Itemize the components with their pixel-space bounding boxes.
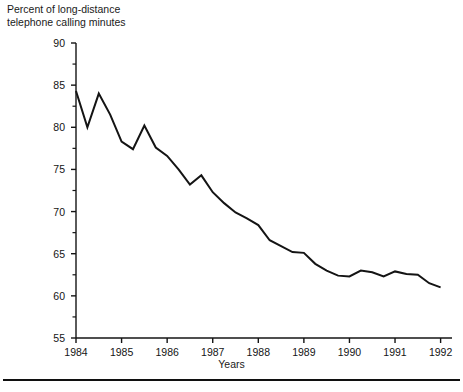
svg-text:1987: 1987 [201, 346, 225, 358]
svg-text:90: 90 [53, 37, 65, 49]
x-axis-tick-labels: 198419851986198719881989199019911992 [64, 346, 452, 358]
svg-text:70: 70 [53, 206, 65, 218]
svg-text:55: 55 [53, 332, 65, 344]
svg-text:80: 80 [53, 121, 65, 133]
svg-text:1988: 1988 [247, 346, 271, 358]
svg-text:1992: 1992 [429, 346, 453, 358]
svg-text:75: 75 [53, 163, 65, 175]
svg-text:65: 65 [53, 248, 65, 260]
x-axis-ticks [76, 338, 441, 343]
svg-text:85: 85 [53, 79, 65, 91]
x-axis-title: Years [0, 358, 463, 371]
data-series-line [76, 91, 441, 287]
svg-text:60: 60 [53, 290, 65, 302]
axis-lines [76, 43, 452, 338]
svg-text:1990: 1990 [338, 346, 362, 358]
line-chart-plot: 5560657075808590 19841985198619871988198… [0, 0, 463, 392]
svg-text:1986: 1986 [155, 346, 179, 358]
svg-text:1985: 1985 [110, 346, 134, 358]
svg-text:1991: 1991 [383, 346, 407, 358]
bottom-divider-rule [3, 379, 460, 381]
chart-figure: Percent of long-distance telephone calli… [0, 0, 463, 392]
svg-text:1989: 1989 [292, 346, 316, 358]
svg-text:1984: 1984 [64, 346, 88, 358]
y-axis-tick-labels: 5560657075808590 [53, 37, 65, 344]
